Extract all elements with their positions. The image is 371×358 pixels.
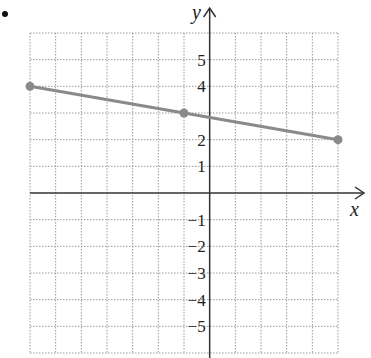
y-tick-label: −4 <box>188 291 207 310</box>
figure-bullet <box>2 11 8 17</box>
x-axis-label: x <box>349 198 359 220</box>
y-tick-label: 2 <box>197 131 206 150</box>
y-tick-label: −2 <box>188 237 206 256</box>
data-point <box>334 135 343 144</box>
coordinate-plane: x y 5421−1−2−3−4−5 <box>0 0 371 358</box>
y-tick-label: 4 <box>197 77 206 96</box>
y-tick-label: −1 <box>188 211 206 230</box>
y-tick-label: −5 <box>188 317 206 336</box>
y-tick-label: 5 <box>197 51 206 70</box>
y-axis-label: y <box>190 1 201 24</box>
data-point <box>26 82 35 91</box>
y-tick-label: −3 <box>188 264 206 283</box>
data-point <box>180 109 189 118</box>
y-tick-label: 1 <box>197 157 206 176</box>
